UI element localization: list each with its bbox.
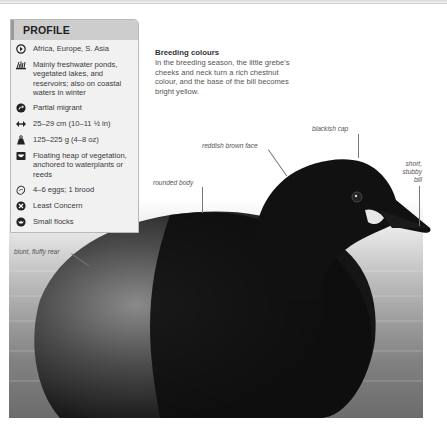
page-top-rule [0,0,447,4]
profile-item-text: 125–225 g (4–8 oz) [33,135,99,144]
habitat-reeds-icon [15,60,27,70]
water-ripple [9,270,423,272]
profile-item-habitat: Mainly freshwater ponds, vegetated lakes… [15,60,134,97]
profile-item-text: Floating heap of vegetation, anchored to… [33,151,134,179]
profile-list: Africa, Europe, S. Asia Mainly freshwate… [11,40,138,227]
profile-item-nest: Floating heap of vegetation, anchored to… [15,151,134,179]
length-arrows-icon [15,119,27,129]
breeding-colours-panel: Breeding colours In the breeding season,… [155,48,295,96]
profile-item-status: Least Concern [15,201,134,211]
breeding-colours-title: Breeding colours [155,48,295,58]
flock-icon [15,217,27,227]
profile-item-text: Partial migrant [33,103,82,112]
profile-box: PROFILE Africa, Europe, S. Asia Mainly f… [10,19,139,233]
annotation-short-stubby-bill: short, stubby bill [400,160,422,184]
annotation-line: stubby [400,168,422,176]
profile-item-text: Africa, Europe, S. Asia [33,44,109,53]
water-ripple [9,380,423,382]
leader-line [358,134,359,158]
profile-item-social: Small flocks [15,217,134,227]
profile-title: PROFILE [11,20,138,40]
nest-icon [15,151,27,161]
leader-line [202,187,203,213]
water-ripple [9,320,423,322]
profile-item-text: 4–6 eggs; 1 brood [33,185,94,194]
profile-item-text: 25–29 cm (10–11 ½ in) [33,119,111,128]
annotation-blackish-cap: blackish cap [312,125,348,133]
annotation-rounded-body: rounded body [153,179,193,187]
annotation-line: short, [400,160,422,168]
conservation-status-icon [15,201,27,211]
leader-line [419,186,420,226]
profile-item-text: Small flocks [33,217,74,226]
profile-item-weight: 125–225 g (4–8 oz) [15,135,134,145]
breeding-colours-text: In the breeding season, the little grebe… [155,58,295,96]
egg-icon [15,185,27,195]
profile-item-range: Africa, Europe, S. Asia [15,44,134,54]
migration-arrow-icon [15,103,27,113]
profile-item-text: Least Concern [33,201,82,210]
profile-item-eggs: 4–6 eggs; 1 brood [15,185,134,195]
annotation-line: bill [400,176,422,184]
profile-item-length: 25–29 cm (10–11 ½ in) [15,119,134,129]
water-ripple [9,295,423,297]
leader-line [268,149,287,176]
annotation-blunt-fluffy-rear: blunt, fluffy rear [14,248,59,256]
annotation-reddish-brown-face: reddish brown face [202,142,258,150]
water-ripple [9,350,423,352]
weight-icon [15,135,27,145]
profile-item-migration: Partial migrant [15,103,134,113]
profile-item-text: Mainly freshwater ponds, vegetated lakes… [33,60,134,97]
range-globe-icon [15,44,27,54]
